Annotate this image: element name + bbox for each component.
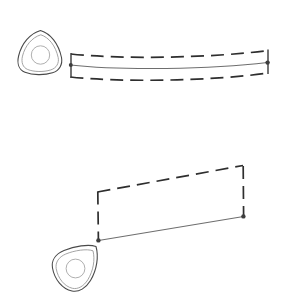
body-outline-bottom <box>52 245 97 291</box>
technical-diagram <box>0 0 283 301</box>
figure-bottom <box>52 166 245 292</box>
lower-left-sweep-node <box>96 238 100 242</box>
centre-sweep-line <box>71 63 268 69</box>
upper-return-dashed-line <box>98 166 244 193</box>
upper-envelope-dashed-line <box>71 51 268 58</box>
figure-top <box>18 31 270 81</box>
left-sweep-node <box>69 63 73 67</box>
lower-sweep-line <box>99 217 244 241</box>
left-riser-dashed-line <box>98 192 99 241</box>
lower-envelope-dashed-line <box>71 73 269 80</box>
right-sweep-node <box>265 60 269 64</box>
lower-right-sweep-node <box>241 214 245 218</box>
diagram-canvas <box>0 0 283 301</box>
